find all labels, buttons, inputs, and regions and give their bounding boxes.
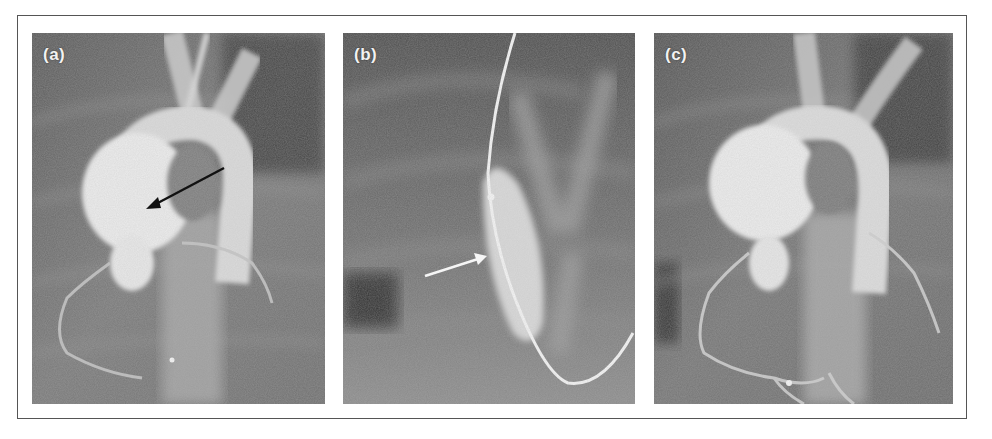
angiogram-image-a [32,33,325,404]
panel-label-b: (b) [354,45,377,65]
panel-label-a: (a) [43,45,65,65]
angiogram-image-b [343,33,635,404]
angiogram-image-c [654,33,953,404]
panel-b-ventriculogram: (b) [343,33,635,404]
panel-c-angiogram: (c) [654,33,953,404]
panel-a-angiogram: (a) [32,33,325,404]
panel-label-c: (c) [665,45,687,65]
